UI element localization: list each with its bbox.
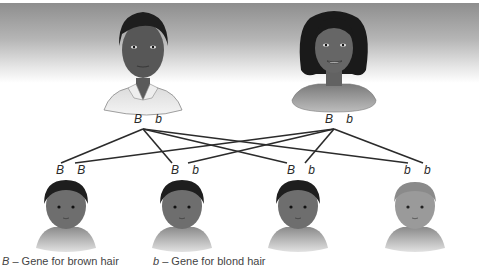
legend-brown: B – Gene for brown hair	[2, 255, 119, 265]
line-mother-child4	[334, 129, 423, 163]
legend-blond: b – Gene for blond hair	[153, 255, 266, 265]
child-1-figure	[36, 180, 96, 252]
line-father-child1	[61, 129, 143, 163]
child-1-genotype: B B	[56, 163, 90, 177]
child-4-genotype: b b	[404, 163, 436, 177]
child-3-figure	[268, 180, 328, 252]
mother-figure	[292, 11, 376, 112]
inheritance-lines	[61, 129, 423, 163]
line-father-child4	[143, 129, 408, 163]
father-figure	[104, 12, 182, 115]
line-father-child3	[143, 129, 287, 163]
child-4-figure	[385, 182, 445, 252]
legend-brown-text: – Gene for brown hair	[9, 255, 118, 265]
mother-genotype: B b	[325, 112, 358, 126]
pedigree-diagram	[0, 0, 479, 265]
line-mother-child1	[75, 129, 334, 163]
child-2-genotype: B b	[171, 163, 204, 177]
child-2-figure	[152, 180, 212, 252]
legend-blond-text: – Gene for blond hair	[159, 255, 265, 265]
child-3-genotype: B b	[287, 163, 320, 177]
father-genotype: B b	[134, 112, 167, 126]
